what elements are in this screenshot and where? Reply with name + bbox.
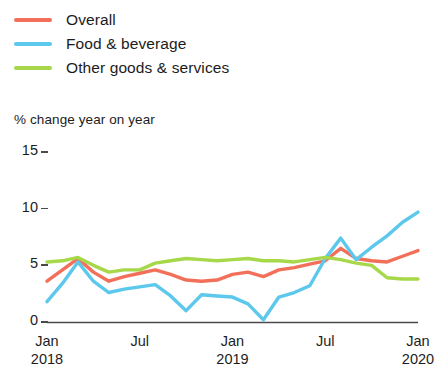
y-tick-mark-5 — [41, 264, 48, 266]
x-tick-label-jul-2018: Jul — [130, 333, 149, 349]
series-line-food-beverage — [47, 212, 418, 320]
x-tick-label-jan-2018: Jan2018 — [31, 333, 63, 367]
y-tick-mark-0 — [41, 321, 48, 323]
y-tick-label-10: 10 — [8, 199, 38, 215]
x-tick-month: Jan — [221, 333, 244, 349]
x-tick-month: Jul — [316, 333, 335, 349]
x-tick-label-jan-2020: Jan2020 — [402, 333, 434, 367]
x-tick-year: 2018 — [31, 351, 63, 367]
x-tick-month: Jul — [130, 333, 149, 349]
series-lines — [47, 212, 418, 320]
x-tick-month: Jan — [35, 333, 58, 349]
x-tick-year: 2020 — [402, 351, 434, 367]
x-tick-label-jul-2019: Jul — [316, 333, 335, 349]
y-tick-label-5: 5 — [8, 255, 38, 271]
y-tick-mark-15 — [41, 151, 48, 153]
y-tick-label-15: 15 — [8, 142, 38, 158]
x-tick-year: 2019 — [216, 351, 248, 367]
y-tick-mark-10 — [41, 208, 48, 210]
x-tick-month: Jan — [406, 333, 429, 349]
y-tick-label-0: 0 — [8, 312, 38, 328]
x-tick-label-jan-2019: Jan2019 — [216, 333, 248, 367]
